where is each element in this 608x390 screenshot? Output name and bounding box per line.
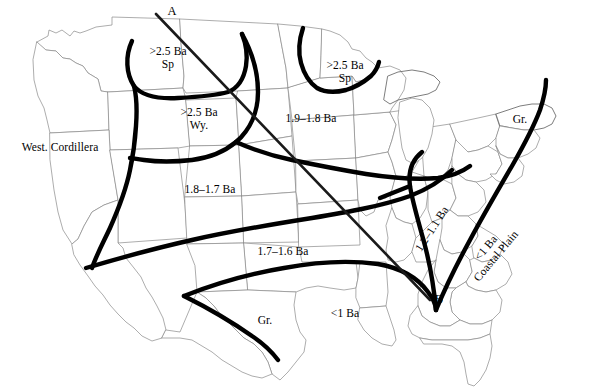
map-label-gulf-lt1: <1 Ba [331,307,359,320]
map-label-west-cordillera: West. Cordillera [22,141,99,154]
map-label-wyoming: >2.5 BaWy. [180,106,217,132]
map-label-superior-west: >2.5 BaSp [149,45,186,71]
map-graphic [0,0,608,390]
map-label-text: Sp [149,58,186,71]
map-label-text: >2.5 Ba [149,45,186,58]
map-label-grenville-ne: Gr. [513,113,528,126]
map-label-prov-19-18: 1.9–1.8 Ba [285,112,336,125]
map-label-text: >2.5 Ba [326,59,363,72]
map-label-grenville-tx: Gr. [258,314,273,327]
map-label-text: Sp [326,72,363,85]
map-label-text: Wy. [180,119,217,132]
basement-age-map: AB>2.5 BaSp>2.5 BaSp>2.5 BaWy.West. Cord… [0,0,608,390]
map-label-section-a: A [167,5,176,18]
map-label-prov-18-17: 1.8–1.7 Ba [184,183,235,196]
map-label-superior-east: >2.5 BaSp [326,59,363,85]
state-boundaries [33,17,556,386]
map-label-text: >2.5 Ba [180,106,217,119]
map-label-prov-17-16: 1.7–1.6 Ba [257,245,308,258]
map-label-section-b: B [435,293,443,306]
